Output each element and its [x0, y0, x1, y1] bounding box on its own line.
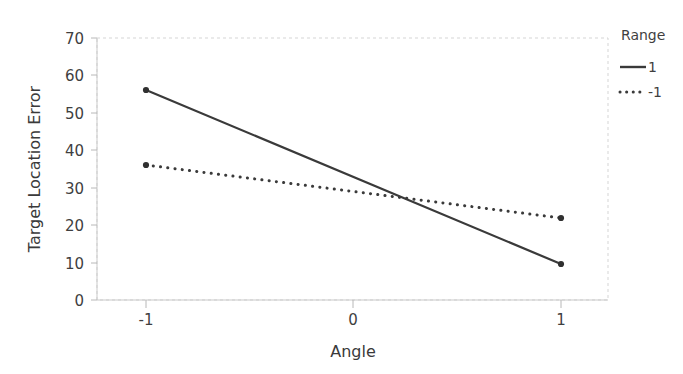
x-tick-label-1: 1	[556, 311, 566, 329]
plot-canvas: 70 60 50 40 30 20 10 0 -1 0 1 Angle Targ…	[0, 0, 683, 374]
y-tick-label-60: 60	[65, 67, 84, 85]
y-tick-label-40: 40	[65, 142, 84, 160]
legend-item-neg1[interactable]: -1	[620, 84, 662, 100]
series-neg1-line	[146, 165, 561, 218]
legend: Range 1 -1	[620, 27, 665, 100]
legend-label-1: 1	[648, 59, 657, 75]
y-tick-label-70: 70	[65, 30, 84, 48]
series-1-point-neg1	[143, 87, 149, 93]
series-range-neg1	[143, 162, 564, 221]
x-axis-title: Angle	[330, 342, 376, 361]
x-tick-label-neg1: -1	[139, 311, 154, 329]
x-tick-label-0: 0	[348, 311, 358, 329]
y-tick-label-0: 0	[74, 292, 84, 310]
series-1-point-1	[558, 261, 564, 267]
legend-title: Range	[621, 27, 665, 43]
y-tick-label-10: 10	[65, 255, 84, 273]
legend-label-neg1: -1	[648, 84, 662, 100]
y-tick-label-20: 20	[65, 217, 84, 235]
y-tick-label-30: 30	[65, 180, 84, 198]
series-neg1-point-neg1	[143, 162, 149, 168]
y-axis-ticks	[91, 38, 97, 300]
y-tick-label-50: 50	[65, 105, 84, 123]
interaction-plot: 70 60 50 40 30 20 10 0 -1 0 1 Angle Targ…	[0, 0, 683, 374]
legend-item-1[interactable]: 1	[620, 59, 657, 75]
series-neg1-point-1	[558, 215, 564, 221]
series-range-1	[143, 87, 564, 267]
series-1-line	[146, 90, 561, 264]
y-axis-title: Target Location Error	[25, 85, 44, 253]
x-axis-ticks	[146, 300, 561, 308]
